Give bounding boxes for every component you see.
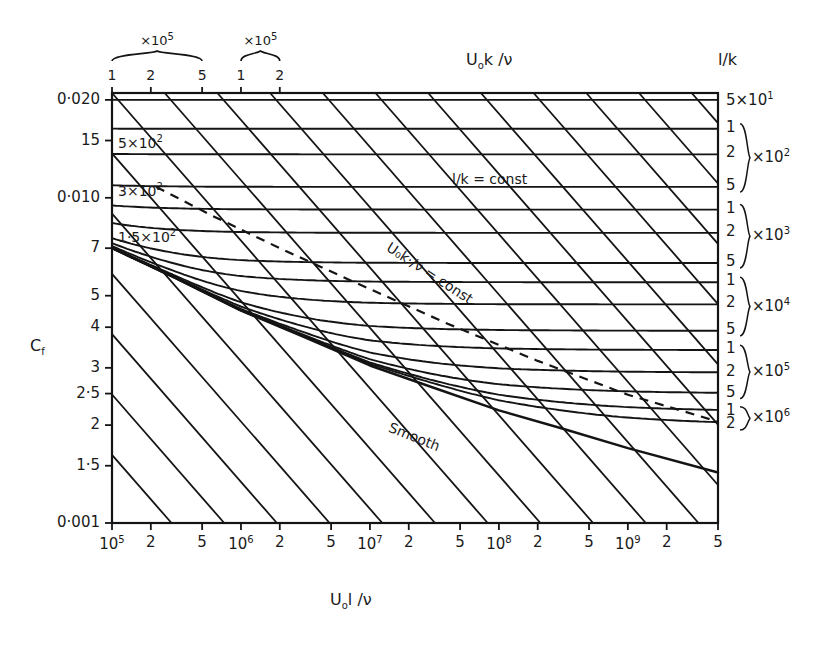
uk-const-line-15: [586, 93, 718, 244]
uk-const-line-0: [112, 455, 172, 523]
right-bracket-label-3: ×105: [752, 362, 790, 379]
right-bracket-4: [740, 407, 750, 430]
right-bracket-label-0: ×102: [752, 148, 790, 165]
x-tick-label-8: 5: [455, 535, 465, 550]
top-tick-label-2-0: 1: [236, 68, 245, 82]
top-bracket-label-1: ×105: [140, 32, 174, 47]
y-tick-label-8: 2: [90, 417, 100, 432]
uk-const-line-3: [112, 274, 330, 523]
x-tick-label-9: 108: [486, 535, 511, 552]
x-axis-title-rest: l /ν: [348, 590, 372, 609]
right-tick-label-2-2: 5: [726, 322, 736, 337]
right-bracket-0: [740, 124, 750, 192]
uk-const-line-17: [692, 93, 718, 123]
right-bracket-label-1: ×103: [752, 226, 790, 243]
right-tick-label-1-2: 5: [726, 254, 736, 269]
lk-curve-500: [112, 185, 718, 187]
right-bracket-label-4: ×106: [752, 408, 790, 425]
right-tick-label-top: 5×101: [726, 91, 774, 108]
y-axis-title-main: C: [30, 336, 41, 355]
x-tick-label-13: 2: [662, 535, 672, 550]
x-tick-label-0: 105: [99, 535, 124, 552]
lk-curve-1000: [112, 205, 718, 209]
right-bracket-1: [740, 205, 750, 268]
top-axis-title-main: U: [466, 50, 478, 69]
y-tick-label-3: 7: [90, 240, 100, 255]
top-axis-title: Uok /ν: [466, 52, 513, 71]
lk-curve-2000000: [112, 248, 718, 422]
chart-figure: Cf Uol /ν Uok /ν l/k l/k = const U₀k·/ν …: [0, 0, 813, 649]
y-axis-title-sub: f: [41, 346, 45, 357]
uk-const-curve-group: [112, 93, 718, 523]
top-tick-label-1-2: 5: [198, 68, 207, 82]
uk-const-line-14: [534, 93, 718, 304]
right-tick-label-2-0: 1: [726, 273, 736, 288]
right-tick-label-0-2: 5: [726, 178, 736, 193]
top-bracket-1: [112, 51, 202, 61]
right-bracket-2: [740, 277, 750, 336]
right-tick-label-3-0: 1: [726, 341, 736, 356]
y-tick-label-9: 1·5: [76, 458, 100, 473]
top-tick-label-2-1: 2: [275, 68, 284, 82]
uk-const-line-1: [112, 395, 224, 524]
right-tick-label-2-1: 2: [726, 295, 736, 310]
x-tick-label-11: 5: [584, 535, 594, 550]
y-tick-label-2: 0·010: [57, 190, 100, 205]
left-curve-label-0: 5×102: [118, 134, 163, 150]
right-tick-label-0-0: 1: [726, 120, 736, 135]
x-tick-label-4: 2: [275, 535, 285, 550]
y-tick-label-7: 2·5: [76, 386, 100, 401]
left-curve-label-2: 1·5×102: [118, 228, 176, 244]
y-tick-label-10: 0·001: [57, 515, 100, 530]
uk-const-line-12: [428, 93, 718, 425]
x-tick-label-7: 2: [404, 535, 414, 550]
x-axis-title-main: U: [330, 590, 342, 609]
x-tick-label-10: 2: [533, 535, 543, 550]
right-tick-label-4-1: 2: [726, 416, 736, 431]
y-tick-label-1: 15: [81, 133, 100, 148]
uk-const-line-2: [112, 334, 277, 523]
x-tick-label-6: 107: [357, 535, 382, 552]
annotation-lk-const: l/k = const: [452, 172, 527, 186]
lk-curve-200: [112, 154, 718, 155]
right-tick-label-3-2: 5: [726, 385, 736, 400]
x-tick-label-5: 5: [326, 535, 336, 550]
x-tick-label-3: 106: [228, 535, 253, 552]
right-tick-label-0-1: 2: [726, 145, 736, 160]
x-axis-title: Uol /ν: [330, 592, 372, 611]
top-tick-label-1-0: 1: [108, 68, 117, 82]
plot-frame: [112, 93, 718, 523]
uk-const-line-11: [376, 93, 719, 485]
x-tick-label-1: 2: [146, 535, 156, 550]
y-axis-title: Cf: [30, 338, 45, 357]
right-axis-title: l/k: [718, 52, 737, 68]
top-tick-label-1-1: 2: [146, 68, 155, 82]
top-bracket-2: [241, 51, 280, 61]
uk-const-line-16: [639, 93, 718, 184]
right-bracket-3: [740, 345, 750, 398]
x-tick-label-2: 5: [197, 535, 207, 550]
uk-const-line-13: [481, 93, 718, 364]
lk-curve-2000: [112, 223, 718, 233]
y-tick-label-0: 0·020: [57, 92, 100, 107]
left-curve-label-1: 3×102: [118, 182, 163, 198]
right-tick-label-1-1: 2: [726, 224, 736, 239]
right-bracket-label-2: ×104: [752, 297, 790, 314]
x-tick-label-14: 5: [713, 535, 723, 550]
right-tick-label-1-0: 1: [726, 201, 736, 216]
right-tick-label-3-1: 2: [726, 364, 736, 379]
top-bracket-label-2: ×105: [243, 32, 277, 47]
top-axis-title-rest: k /ν: [484, 50, 513, 69]
x-tick-label-12: 109: [615, 535, 640, 552]
y-tick-label-6: 3: [90, 360, 100, 375]
y-tick-label-5: 4: [90, 319, 100, 334]
y-tick-label-4: 5: [90, 288, 100, 303]
